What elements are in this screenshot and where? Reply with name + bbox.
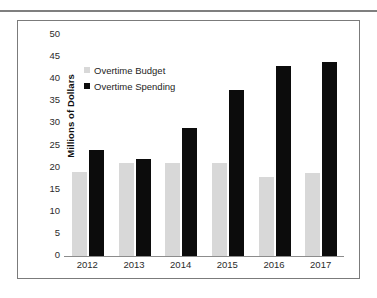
bar-spending-2014 (182, 128, 197, 256)
bar-budget-2013 (119, 163, 134, 256)
bar-spending-2016 (276, 66, 291, 256)
top-horizontal-rule (0, 10, 377, 12)
y-tick-label: 50 (38, 28, 60, 39)
legend-swatch-icon (84, 67, 90, 73)
bar-spending-2017 (322, 62, 337, 256)
y-tick-0: 0 (64, 256, 344, 257)
x-axis-labels: 201220132014201520162017 (64, 259, 344, 275)
chart-panel: Millions of Dollars 50454035302520151050… (17, 20, 360, 279)
y-tick-label: 40 (38, 72, 60, 83)
x-axis-label-2016: 2016 (250, 259, 298, 270)
y-tick-label: 35 (38, 94, 60, 105)
bar-group (251, 35, 298, 256)
y-tick-label: 10 (38, 205, 60, 216)
x-axis-label-2012: 2012 (63, 259, 111, 270)
bar-group (297, 35, 344, 256)
x-axis-label-2013: 2013 (110, 259, 158, 270)
x-axis-label-2017: 2017 (297, 259, 345, 270)
legend-item-spending[interactable]: Overtime Spending (84, 79, 214, 93)
y-tick-label: 15 (38, 183, 60, 194)
legend-label: Overtime Budget (94, 65, 165, 76)
legend-swatch-icon (84, 83, 90, 89)
legend-item-budget[interactable]: Overtime Budget (84, 63, 214, 77)
bar-spending-2012 (89, 150, 104, 256)
bar-spending-2013 (136, 159, 151, 256)
y-tick-label: 25 (38, 139, 60, 150)
chart-legend: Overtime BudgetOvertime Spending (84, 63, 214, 95)
x-axis-label-2014: 2014 (157, 259, 205, 270)
y-tick-label: 45 (38, 50, 60, 61)
y-tick-label: 0 (38, 249, 60, 260)
legend-label: Overtime Spending (94, 81, 175, 92)
y-tick-label: 5 (38, 227, 60, 238)
bar-spending-2015 (229, 90, 244, 256)
bar-budget-2012 (72, 172, 87, 256)
bar-budget-2015 (212, 163, 227, 256)
y-tick-label: 20 (38, 161, 60, 172)
bar-budget-2017 (305, 173, 320, 256)
y-tick-label: 30 (38, 116, 60, 127)
bar-budget-2014 (165, 163, 180, 256)
y-tick-line (64, 256, 344, 257)
x-axis-label-2015: 2015 (203, 259, 251, 270)
bar-budget-2016 (259, 177, 274, 256)
